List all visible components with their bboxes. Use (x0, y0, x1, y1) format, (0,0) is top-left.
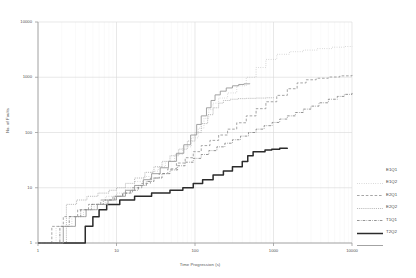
legend-swatch-icon (357, 196, 383, 198)
legend-item-E1Q1[interactable]: E1Q1 (357, 166, 415, 177)
x-tick-label: 1 (25, 248, 51, 253)
x-axis-title: Time Progression (s) (140, 262, 260, 267)
chart-canvas (0, 0, 416, 278)
legend-swatch-icon (357, 233, 383, 235)
y-tick-label: 10 (6, 185, 32, 190)
legend-label: T2Q2 (386, 229, 397, 234)
x-tick-label: 10000 (339, 248, 365, 253)
legend-label: T1Q1 (386, 217, 397, 222)
legend-label: E1Q1 (386, 167, 397, 172)
legend-label: E2Q2 (386, 204, 397, 209)
legend-label: E2Q1 (386, 192, 397, 197)
legend-swatch-icon (357, 221, 383, 223)
y-tick-label: 100 (6, 130, 32, 135)
legend-item-T2Q2[interactable]: T2Q2 (357, 228, 415, 239)
y-tick-label: 10000 (6, 19, 32, 24)
chart-legend: E1Q1E1Q2E2Q1E2Q2T1Q1T2Q2 (357, 166, 415, 242)
y-tick-label: 1000 (6, 74, 32, 79)
x-tick-label: 1000 (261, 248, 287, 253)
legend-item-E1Q2[interactable]: E1Q2 (357, 178, 415, 189)
legend-item-E2Q1[interactable]: E2Q1 (357, 191, 415, 202)
legend-label: E1Q2 (386, 179, 397, 184)
legend-item-E2Q2[interactable]: E2Q2 (357, 203, 415, 214)
series-line-E2Q1 (38, 98, 274, 244)
y-axis-title: No. of Faults (5, 98, 10, 144)
y-tick-label: 1 (6, 240, 32, 245)
legend-swatch-icon (357, 183, 383, 185)
legend-item-T1Q1[interactable]: T1Q1 (357, 216, 415, 227)
x-tick-label: 10 (104, 248, 130, 253)
legend-swatch-icon (357, 208, 383, 210)
chart-container (0, 0, 416, 278)
legend-swatch-icon (357, 171, 383, 173)
x-tick-label: 100 (182, 248, 208, 253)
